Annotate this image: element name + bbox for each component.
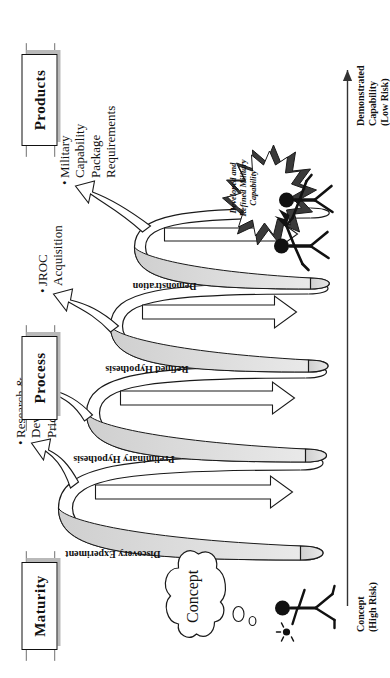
cloud-tail-bubble-1 xyxy=(233,607,244,622)
output-label-4-bullet: • xyxy=(56,180,72,185)
spiral-stage-label-2: Preliminary Hypothesis xyxy=(73,454,174,465)
axis-start-line1: Concept xyxy=(354,582,366,632)
spiral-stage-label-1: Discovery Experiment xyxy=(65,549,160,560)
output-label-3-line2: Acquisition xyxy=(49,225,64,286)
starburst-text: Developed and Refined Military Capabilit… xyxy=(228,145,258,231)
starburst-line1: Developed and xyxy=(228,145,238,231)
spiral-loop-2 xyxy=(86,366,326,462)
banner-products-label: Products xyxy=(31,70,48,130)
axis-end-line3: (Low Risk) xyxy=(378,65,390,126)
out-arrow-3 xyxy=(53,289,118,332)
spiral-stage-label-4: Demonstration xyxy=(132,281,196,292)
banner-maturity: Maturity xyxy=(22,562,56,650)
output-label-3: JROC Acquisition xyxy=(34,225,65,286)
axis-start-line2: (High Risk) xyxy=(366,582,378,632)
cloud-tail-bubble-2 xyxy=(249,617,256,626)
axis-end-label: Demonstrated Capability (Low Risk) xyxy=(354,65,390,126)
concept-cloud-label: Concept xyxy=(182,570,201,623)
spiral-stage-label-3: Refined Hypothesis xyxy=(105,364,188,375)
output-label-4: Military Capability Package Requirements xyxy=(56,106,117,178)
banner-products: Products xyxy=(22,54,56,146)
starburst-line3: Capability xyxy=(248,145,258,231)
banner-process: Process xyxy=(22,336,56,420)
maturity-axis xyxy=(342,70,351,606)
idea-stick-figure xyxy=(275,586,335,641)
starburst-line2: Refined Military xyxy=(238,145,248,231)
axis-start-label: Concept (High Risk) xyxy=(354,582,378,632)
banner-process-label: Process xyxy=(31,353,48,404)
output-label-3-bullet: • xyxy=(34,288,50,293)
out-arrow-4 xyxy=(75,181,150,232)
output-label-4-line3: Package xyxy=(87,106,102,178)
idea-figure-head xyxy=(275,601,290,616)
concept-cloud xyxy=(165,551,255,637)
output-label-4-line4: Requirements xyxy=(102,106,117,178)
out-arrow-1 xyxy=(31,439,78,488)
banner-maturity-label: Maturity xyxy=(31,575,48,637)
spiral-loop-1 xyxy=(58,456,323,560)
output-label-1-bullet: • xyxy=(12,440,28,445)
spiral-loops xyxy=(58,208,329,560)
output-label-3-line1: JROC xyxy=(34,225,49,286)
axis-end-line1: Demonstrated xyxy=(354,65,366,126)
axis-arrowhead xyxy=(342,70,351,81)
axis-end-line2: Capability xyxy=(366,65,378,126)
spiral-loop-3 xyxy=(110,283,328,372)
output-label-4-line2: Capability xyxy=(71,106,86,178)
lightbulb-icon xyxy=(282,628,289,635)
